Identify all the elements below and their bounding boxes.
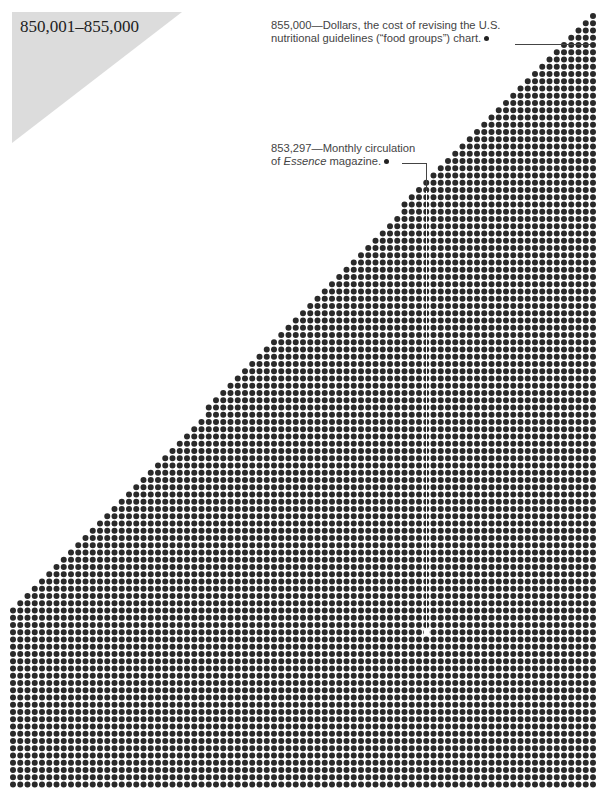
leader-line-853297-h — [402, 163, 426, 164]
leader-line-853297-v-top — [426, 163, 427, 191]
leader-line-855000 — [515, 44, 590, 45]
leader-line-853297-v-white — [426, 191, 427, 631]
annotation-855000-line2: nutritional guidelines (“food groups”) c… — [271, 32, 500, 45]
dot-grid — [0, 0, 610, 805]
annotation-855000: 855,000—Dollars, the cost of revising th… — [271, 19, 500, 45]
annotation-853297-line1: 853,297—Monthly circulation — [271, 142, 415, 155]
bullet-icon — [484, 36, 489, 41]
annotation-853297-line2: of Essence magazine. — [271, 155, 415, 168]
annotation-853297: 853,297—Monthly circulation of Essence m… — [271, 142, 415, 168]
annotation-855000-line1: 855,000—Dollars, the cost of revising th… — [271, 19, 500, 32]
bullet-icon — [384, 159, 389, 164]
